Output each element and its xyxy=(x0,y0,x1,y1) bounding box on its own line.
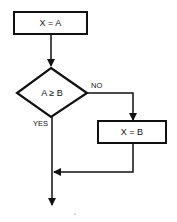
box-label-x-equals-b: X = B xyxy=(121,127,143,137)
arrow-no-branch xyxy=(87,93,133,120)
decision-label: A ≥ B xyxy=(41,88,62,98)
no-label: NO xyxy=(91,81,102,90)
yes-label: YES xyxy=(33,119,48,128)
flowchart: X = A A ≥ B NO X = B YES xyxy=(0,0,177,222)
process-box-x-equals-a: X = A xyxy=(14,12,87,34)
process-box-x-equals-b: X = B xyxy=(98,121,166,143)
speck xyxy=(74,213,75,214)
decision-diamond: A ≥ B xyxy=(17,68,87,117)
box-label-x-equals-a: X = A xyxy=(40,18,62,28)
arrow-merge xyxy=(54,143,133,172)
